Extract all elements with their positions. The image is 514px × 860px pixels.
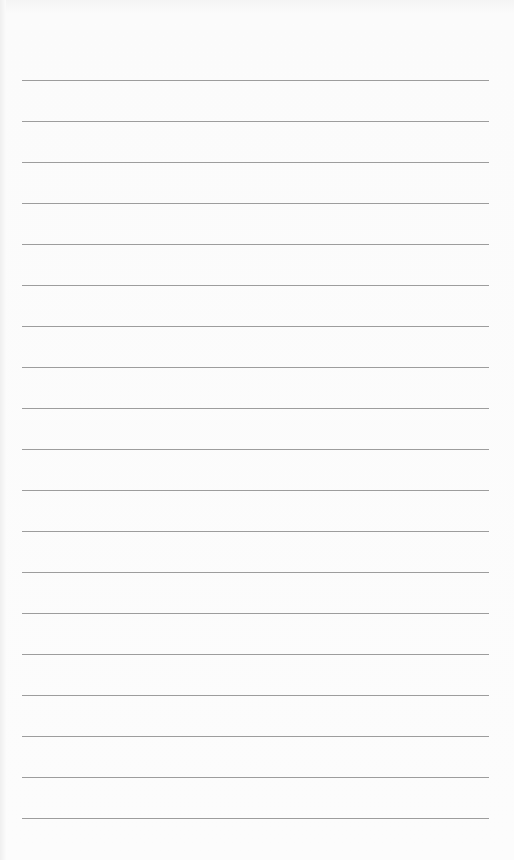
ruled-line — [22, 695, 489, 696]
ruled-line — [22, 490, 489, 491]
ruled-line — [22, 326, 489, 327]
ruled-line — [22, 777, 489, 778]
ruled-line — [22, 367, 489, 368]
ruled-line — [22, 736, 489, 737]
ruled-line — [22, 654, 489, 655]
ruled-line — [22, 203, 489, 204]
ruled-line — [22, 121, 489, 122]
ruled-line — [22, 818, 489, 819]
paper-edge-shadow — [0, 0, 6, 860]
ruled-line — [22, 285, 489, 286]
ruled-line — [22, 162, 489, 163]
ruled-line — [22, 408, 489, 409]
ruled-line — [22, 572, 489, 573]
ruled-line — [22, 80, 489, 81]
lined-paper-page — [0, 0, 514, 860]
ruled-line — [22, 613, 489, 614]
ruled-line — [22, 531, 489, 532]
ruled-line — [22, 449, 489, 450]
ruled-line — [22, 244, 489, 245]
